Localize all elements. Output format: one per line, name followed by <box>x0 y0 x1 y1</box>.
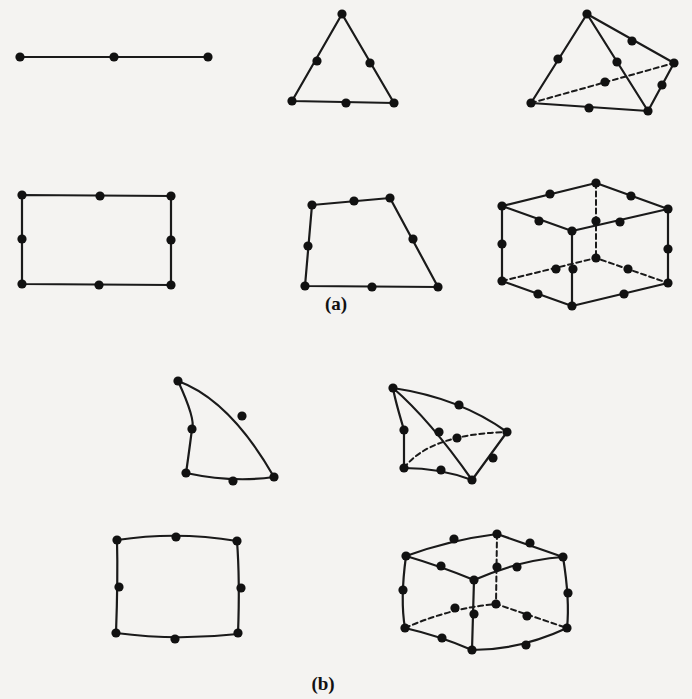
element-node <box>619 289 628 298</box>
element-node <box>615 217 624 226</box>
element-node <box>349 196 358 205</box>
element-node <box>408 234 417 243</box>
element-node <box>114 582 123 591</box>
panel-b-label: (b) <box>311 673 334 695</box>
element-node <box>488 453 497 462</box>
element-node <box>17 190 26 199</box>
element-node <box>228 476 237 485</box>
element-node <box>526 98 535 107</box>
element-node <box>166 280 175 289</box>
element-node <box>551 264 560 273</box>
element-node <box>584 103 593 112</box>
element-node <box>400 623 409 632</box>
element-node <box>437 633 446 642</box>
element-node <box>563 588 572 597</box>
element-node <box>657 80 666 89</box>
element-node <box>623 264 632 273</box>
element-node <box>236 583 245 592</box>
element-node <box>534 216 543 225</box>
element-node <box>398 585 407 594</box>
element-node <box>525 538 534 547</box>
element-node <box>436 465 445 474</box>
element-node <box>452 433 461 442</box>
element-node <box>449 534 458 543</box>
element-node <box>232 536 241 545</box>
element-node <box>17 279 26 288</box>
element-node <box>612 57 621 66</box>
element-node <box>170 634 179 643</box>
element-node <box>591 216 600 225</box>
element-node <box>300 281 309 290</box>
element-node <box>181 468 190 477</box>
element-node <box>454 400 463 409</box>
element-node <box>112 535 121 544</box>
finite-element-diagram: (a) (b) <box>0 0 692 699</box>
element-node <box>591 253 600 262</box>
element-node <box>166 235 175 244</box>
element-node <box>521 640 530 649</box>
element-node <box>303 241 312 250</box>
element-node <box>433 282 442 291</box>
element-node <box>341 98 350 107</box>
element-node <box>312 56 321 65</box>
element-node <box>436 561 445 570</box>
element-node <box>567 226 576 235</box>
element-node <box>591 178 600 187</box>
element-node <box>95 191 104 200</box>
element-node <box>337 9 346 18</box>
element-node <box>367 282 376 291</box>
element-node <box>109 52 118 61</box>
element-node <box>497 201 506 210</box>
element-node <box>492 562 501 571</box>
element-node <box>582 9 591 18</box>
element-node <box>203 52 212 61</box>
element-node <box>533 289 542 298</box>
element-node <box>669 58 678 67</box>
element-node <box>287 96 296 105</box>
element-node <box>545 189 554 198</box>
element-node <box>434 427 443 436</box>
element-node <box>171 532 180 541</box>
element-node <box>111 628 120 637</box>
element-node <box>492 529 501 538</box>
element-node <box>365 58 374 67</box>
element-node <box>600 77 609 86</box>
element-node <box>469 575 478 584</box>
element-node <box>187 424 196 433</box>
element-node <box>307 200 316 209</box>
element-node <box>522 611 531 620</box>
element-node <box>467 475 476 484</box>
element-node <box>663 204 672 213</box>
element-node <box>166 191 175 200</box>
element-node <box>562 623 571 632</box>
element-node <box>558 552 567 561</box>
element-node <box>663 244 672 253</box>
element-node <box>497 276 506 285</box>
element-node <box>15 52 24 61</box>
element-node <box>385 193 394 202</box>
element-node <box>567 301 576 310</box>
element-node <box>553 54 562 63</box>
element-node <box>389 98 398 107</box>
element-node <box>568 264 577 273</box>
element-node <box>491 599 500 608</box>
element-node <box>17 234 26 243</box>
element-node <box>269 472 278 481</box>
element-node <box>401 551 410 560</box>
element-node <box>173 376 182 385</box>
element-node <box>399 425 408 434</box>
element-node <box>626 191 635 200</box>
element-node <box>467 645 476 654</box>
element-node <box>643 106 652 115</box>
element-node <box>502 427 511 436</box>
element-node <box>663 278 672 287</box>
element-node <box>450 603 459 612</box>
element-node <box>233 628 242 637</box>
element-node <box>237 411 246 420</box>
element-node <box>469 609 478 618</box>
element-node <box>388 383 397 392</box>
element-node <box>512 562 521 571</box>
element-node <box>497 239 506 248</box>
element-node <box>94 280 103 289</box>
element-node <box>399 463 408 472</box>
